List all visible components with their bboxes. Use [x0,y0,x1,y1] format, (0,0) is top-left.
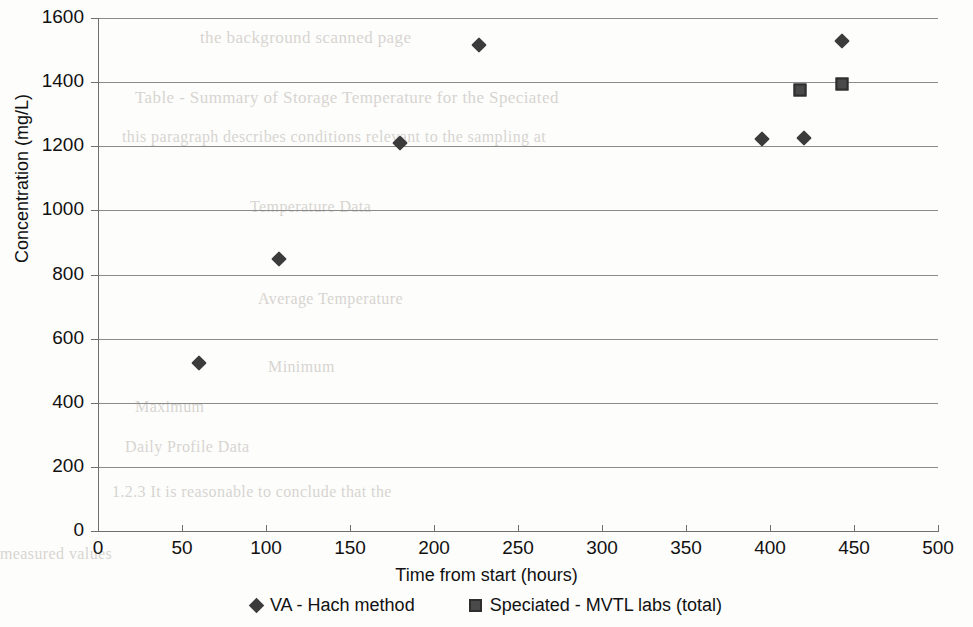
x-axis-tick-label: 150 [334,537,366,559]
y-axis-tick [91,339,98,340]
legend-item-label: Speciated - MVTL labs (total) [490,595,722,616]
y-axis-tick-label: 400 [0,391,84,413]
legend-item: VA - Hach method [251,595,415,616]
data-point-marker [794,84,807,97]
square-marker [469,599,482,612]
x-axis-tick-label: 50 [171,537,192,559]
x-axis-tick-label: 450 [838,537,870,559]
x-axis-tick-label: 200 [418,537,450,559]
x-axis-tick-label: 500 [922,537,954,559]
data-point-marker [834,33,850,49]
x-axis-line [98,531,939,532]
y-axis-tick [91,210,98,211]
x-axis-title: Time from start (hours) [0,565,973,586]
y-axis-tick [91,467,98,468]
legend-item-label: VA - Hach method [270,595,415,616]
y-axis-tick [91,82,98,83]
y-axis-title: Concentration (mg/L) [12,9,33,349]
data-point-marker [191,355,207,371]
x-axis-tick-label: 400 [754,537,786,559]
data-point-marker [754,131,770,147]
y-axis-tick [91,18,98,19]
y-axis-tick [91,275,98,276]
data-point-marker [836,77,849,90]
x-axis-tick-label: 0 [93,537,104,559]
x-axis-tick-label: 300 [586,537,618,559]
legend-item: Speciated - MVTL labs (total) [469,595,722,616]
x-axis-tick-label: 350 [670,537,702,559]
y-axis-tick-label: 0 [0,519,84,541]
y-axis-tick-label: 200 [0,455,84,477]
data-point-marker [272,251,288,267]
data-point-marker [393,135,409,151]
data-point-marker [796,130,812,146]
x-axis-tick-label: 100 [250,537,282,559]
x-axis-tick-label: 250 [502,537,534,559]
y-axis-tick [91,403,98,404]
y-axis-tick [91,531,98,532]
chart-page: the background scanned page Table - Summ… [0,0,973,627]
diamond-marker [249,598,265,614]
data-point-marker [472,37,488,53]
scatter-chart: 02004006008001000120014001600 0501001502… [0,0,973,627]
chart-legend: VA - Hach methodSpeciated - MVTL labs (t… [0,595,973,616]
y-axis-tick [91,146,98,147]
plot-area [98,18,938,531]
